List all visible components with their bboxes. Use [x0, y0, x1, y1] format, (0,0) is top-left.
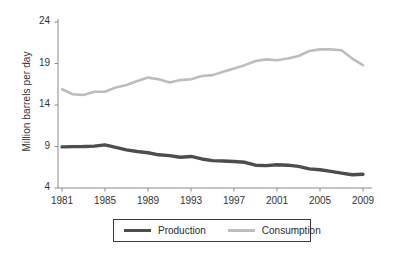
legend-label-production: Production	[158, 225, 206, 236]
x-tick-label: 1997	[214, 195, 254, 206]
axis-lines	[58, 19, 372, 188]
y-tick-label: 9	[24, 140, 50, 151]
series-line-production	[62, 145, 363, 175]
x-tick-label: 2009	[343, 195, 383, 206]
series-lines	[62, 49, 363, 174]
y-tick-label: 24	[24, 15, 50, 26]
x-tick-label: 2001	[257, 195, 297, 206]
line-chart: Million barrels per day 49141924 1981198…	[0, 0, 415, 253]
x-tick-label: 1981	[42, 195, 82, 206]
x-tick-label: 1993	[171, 195, 211, 206]
chart-legend: Production Consumption	[113, 219, 311, 242]
tick-marks	[55, 22, 364, 192]
legend-swatch-production-icon	[124, 229, 151, 233]
x-tick-label: 2005	[300, 195, 340, 206]
series-line-consumption	[62, 49, 363, 95]
x-tick-label: 1989	[128, 195, 168, 206]
x-tick-label: 1985	[85, 195, 125, 206]
y-tick-label: 14	[24, 98, 50, 109]
legend-item-consumption: Consumption	[228, 220, 321, 241]
legend-label-consumption: Consumption	[262, 225, 321, 236]
legend-swatch-consumption-icon	[228, 229, 255, 232]
legend-item-production: Production	[124, 220, 206, 241]
plot-area	[0, 0, 415, 253]
y-tick-label: 4	[24, 181, 50, 192]
y-tick-label: 19	[24, 57, 50, 68]
